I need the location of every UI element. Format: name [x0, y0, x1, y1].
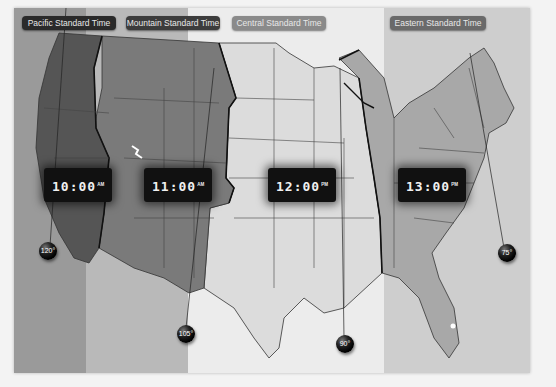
meridian-90-pin: 90° — [336, 335, 354, 353]
mountain-ampm: AM — [197, 182, 204, 187]
time-zone-map: Pacific Standard Time Mountain Standard … — [14, 8, 530, 373]
eastern-time: 13:00 — [406, 179, 450, 194]
lake-okeechobee-mark — [451, 324, 456, 329]
mountain-time: 11:00 — [152, 179, 196, 194]
eastern-clock: 13:00PM — [398, 168, 466, 202]
pacific-time: 10:00 — [52, 179, 96, 194]
mountain-clock: 11:00AM — [144, 168, 212, 202]
pacific-zone-land — [36, 33, 109, 263]
central-clock: 12:00PM — [268, 168, 336, 202]
mountain-zone-label: Mountain Standard Time — [126, 16, 220, 30]
pacific-ampm: AM — [97, 182, 104, 187]
meridian-105-pin: 105° — [177, 325, 195, 343]
central-ampm: PM — [321, 182, 328, 187]
central-time: 12:00 — [276, 179, 320, 194]
meridian-75-pin: 75° — [498, 244, 516, 262]
eastern-zone-label: Eastern Standard Time — [390, 16, 486, 30]
pacific-zone-label: Pacific Standard Time — [22, 16, 116, 30]
pacific-clock: 10:00AM — [44, 168, 112, 202]
meridian-120-pin: 120° — [39, 242, 57, 260]
eastern-ampm: PM — [451, 182, 458, 187]
central-zone-label: Central Standard Time — [232, 16, 326, 30]
